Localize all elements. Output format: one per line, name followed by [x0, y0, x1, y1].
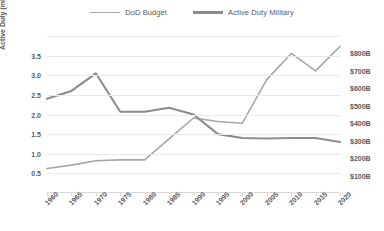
gridline	[47, 75, 340, 76]
y-axis-right-tick-label: $200B	[350, 155, 371, 162]
line-dod-budget	[47, 46, 340, 168]
legend-item-dod-budget[interactable]: DoD Budget	[90, 8, 167, 17]
y-axis-left-tick-label: 1.5	[31, 131, 41, 138]
y-axis-right-tick-label: $100B	[350, 172, 371, 179]
y-axis-left-tick-label: 3.5	[31, 52, 41, 59]
line-active-duty-military	[47, 73, 340, 142]
legend-label-active-duty-military: Active Duty Military	[228, 8, 294, 17]
gridline	[47, 173, 340, 174]
y-axis-right-tick-label: $800B	[350, 50, 371, 57]
y-axis-right-tick-label: $400B	[350, 120, 371, 127]
y-axis-left-tick-label: 3.0	[31, 72, 41, 79]
y-axis-right-tick-label: $500B	[350, 102, 371, 109]
chart-container: DoD Budget Active Duty Military Active D…	[0, 0, 384, 231]
gridline	[47, 115, 340, 116]
y-axis-left-labels: 0.51.01.52.02.53.03.5	[0, 36, 45, 193]
y-axis-left-tick-label: 2.5	[31, 91, 41, 98]
gridline	[47, 154, 340, 155]
x-axis-tick-label: 1960	[43, 190, 59, 206]
y-axis-right-tick-label: $600B	[350, 85, 371, 92]
y-axis-right-tick-label: $700B	[350, 67, 371, 74]
legend-label-dod-budget: DoD Budget	[125, 8, 167, 17]
y-axis-left-tick-label: 0.5	[31, 170, 41, 177]
gridline	[47, 95, 340, 96]
y-axis-right-tick-label: $300B	[350, 137, 371, 144]
gridline	[47, 134, 340, 135]
y-axis-right-labels: $100B$200B$300B$400B$500B$600B$700B$800B	[344, 36, 384, 193]
legend-item-active-duty-military[interactable]: Active Duty Military	[193, 8, 294, 17]
y-axis-left-tick-label: 2.0	[31, 111, 41, 118]
chart-legend: DoD Budget Active Duty Military	[0, 8, 384, 17]
plot-area	[47, 36, 340, 193]
legend-line-icon	[90, 12, 120, 14]
y-axis-left-tick-label: 1.0	[31, 150, 41, 157]
gridline	[47, 36, 340, 37]
legend-line-icon	[193, 11, 223, 14]
x-axis-labels: 1960196519701975198019851990199520002005…	[47, 196, 340, 231]
gridline	[47, 56, 340, 57]
